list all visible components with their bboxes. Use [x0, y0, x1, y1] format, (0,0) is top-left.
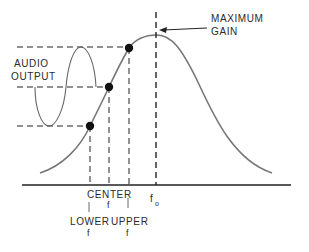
maximum-gain-label-line1: MAXIMUM	[211, 13, 264, 24]
center-label: CENTER	[87, 189, 132, 200]
maximum-gain-arrow-line	[163, 28, 207, 30]
upper-label: UPPER	[111, 216, 148, 227]
center-f-label: f	[107, 200, 110, 210]
f0-label: f	[150, 193, 153, 204]
arrowhead-icon	[159, 27, 167, 33]
lower-point-dot	[86, 122, 94, 130]
lower-label: LOWER	[70, 216, 110, 227]
upper-point-dot	[125, 44, 133, 52]
resonance-diagram: MAXIMUM GAIN AUDIO OUTPUT CENTER f f o L…	[0, 0, 309, 252]
f0-subscript: o	[155, 200, 160, 207]
upper-f-label: f	[126, 228, 129, 238]
center-point-dot	[105, 83, 113, 91]
lower-f-label: f	[87, 228, 90, 238]
maximum-gain-label-line2: GAIN	[211, 26, 238, 37]
audio-output-label-line2: OUTPUT	[11, 71, 56, 82]
audio-output-label-line1: AUDIO	[14, 58, 49, 69]
